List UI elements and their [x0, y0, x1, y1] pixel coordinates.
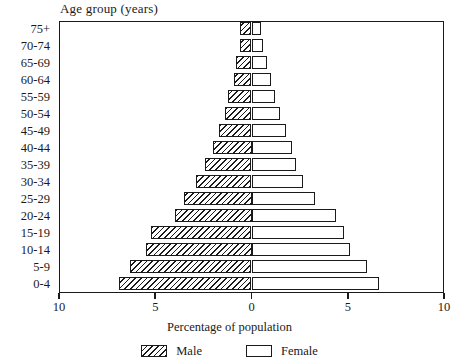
y-axis-tick-labels: 0-45-910-1415-1920-2425-2930-3435-3940-4…: [0, 21, 56, 293]
y-axis-title: Age group (years): [60, 1, 158, 17]
bar-female-50-54: [252, 107, 281, 120]
bar-female-45-49: [252, 124, 287, 137]
bar-male-20-24: [175, 209, 252, 222]
bar-female-70-74: [252, 39, 264, 52]
bar-male-0-4: [119, 277, 252, 290]
bar-female-20-24: [252, 209, 337, 222]
bar-male-40-44: [213, 141, 252, 154]
pyramid-row: [59, 191, 444, 208]
bar-female-55-59: [252, 90, 275, 103]
pyramid-row: [59, 140, 444, 157]
pyramid-row: [59, 208, 444, 225]
y-tick-label-0-4: 0-4: [0, 276, 56, 293]
y-tick-label-55-59: 55-59: [0, 89, 56, 106]
bar-female-75+: [252, 22, 262, 35]
bar-female-15-19: [252, 226, 344, 239]
chart-legend: Male Female: [0, 341, 459, 361]
bar-female-35-39: [252, 158, 296, 171]
bar-male-30-34: [196, 175, 252, 188]
x-tick-label: 5: [328, 300, 368, 315]
x-tick-label: 0: [232, 300, 272, 315]
legend-label-female: Female: [281, 344, 318, 359]
y-tick-label-5-9: 5-9: [0, 259, 56, 276]
bar-male-60-64: [234, 73, 251, 86]
y-tick-label-45-49: 45-49: [0, 123, 56, 140]
y-tick-label-65-69: 65-69: [0, 55, 56, 72]
x-tick-label: 10: [39, 300, 79, 315]
bar-male-15-19: [151, 226, 251, 239]
bar-female-65-69: [252, 56, 267, 69]
x-tick-label: 5: [135, 300, 175, 315]
population-pyramid-chart: Age group (years) 0-45-910-1415-1920-242…: [0, 0, 459, 363]
bar-male-50-54: [225, 107, 252, 120]
y-tick-label-75+: 75+: [0, 21, 56, 38]
legend-swatch-male-icon: [141, 345, 167, 357]
pyramid-row: [59, 106, 444, 123]
y-tick-label-15-19: 15-19: [0, 225, 56, 242]
x-tick-mark: [251, 293, 253, 299]
pyramid-row: [59, 21, 444, 38]
y-tick-label-60-64: 60-64: [0, 72, 56, 89]
pyramid-row: [59, 242, 444, 259]
bar-male-35-39: [205, 158, 251, 171]
legend-label-male: Male: [176, 344, 202, 359]
pyramid-row: [59, 157, 444, 174]
bar-female-10-14: [252, 243, 350, 256]
x-tick-mark: [347, 293, 349, 299]
x-tick-label: 10: [424, 300, 459, 315]
pyramid-row: [59, 276, 444, 293]
x-axis-title: Percentage of population: [0, 320, 459, 335]
x-axis-ticks: 1050510: [0, 293, 459, 323]
bar-female-60-64: [252, 73, 271, 86]
bar-male-5-9: [130, 260, 251, 273]
pyramid-row: [59, 259, 444, 276]
bar-male-55-59: [228, 90, 251, 103]
pyramid-row: [59, 174, 444, 191]
bar-female-40-44: [252, 141, 292, 154]
bar-female-0-4: [252, 277, 379, 290]
legend-item-female: Female: [246, 344, 318, 359]
y-tick-label-10-14: 10-14: [0, 242, 56, 259]
y-tick-label-40-44: 40-44: [0, 140, 56, 157]
y-tick-label-70-74: 70-74: [0, 38, 56, 55]
bar-male-65-69: [236, 56, 251, 69]
legend-item-male: Male: [141, 344, 202, 359]
pyramid-row: [59, 72, 444, 89]
legend-swatch-female-icon: [246, 345, 272, 357]
x-tick-mark: [443, 293, 445, 299]
x-tick-mark: [58, 293, 60, 299]
bar-female-30-34: [252, 175, 304, 188]
x-tick-mark: [154, 293, 156, 299]
pyramid-row: [59, 225, 444, 242]
bars-container: [59, 21, 444, 293]
y-tick-label-35-39: 35-39: [0, 157, 56, 174]
pyramid-row: [59, 38, 444, 55]
bar-male-10-14: [146, 243, 252, 256]
bar-male-75+: [240, 22, 252, 35]
pyramid-row: [59, 123, 444, 140]
y-tick-label-30-34: 30-34: [0, 174, 56, 191]
bar-male-25-29: [184, 192, 251, 205]
pyramid-row: [59, 89, 444, 106]
bar-female-25-29: [252, 192, 316, 205]
y-tick-label-50-54: 50-54: [0, 106, 56, 123]
bar-male-70-74: [240, 39, 252, 52]
y-tick-label-25-29: 25-29: [0, 191, 56, 208]
bar-female-5-9: [252, 260, 368, 273]
pyramid-row: [59, 55, 444, 72]
y-tick-label-20-24: 20-24: [0, 208, 56, 225]
bar-male-45-49: [219, 124, 252, 137]
